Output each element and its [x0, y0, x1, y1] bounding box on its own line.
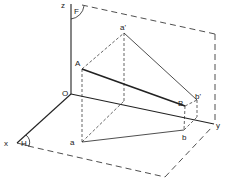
y-label: y	[216, 121, 220, 130]
x-axis	[17, 94, 71, 143]
z-label: z	[61, 1, 65, 10]
origin-label: O	[62, 89, 68, 98]
projection-lines	[82, 33, 197, 142]
y-axis	[71, 94, 214, 124]
point-a-label: a	[70, 138, 75, 147]
point-B-label: B	[178, 99, 183, 108]
x-label: x	[4, 139, 8, 148]
front-projection-a-b	[124, 33, 197, 100]
projection-diagram: z F O x H y a' A B b' a b	[0, 0, 227, 181]
point-A-label: A	[75, 59, 81, 68]
vertical-plane-outline	[82, 5, 215, 124]
h-plane-label: H	[21, 139, 27, 148]
point-a-prime-label: a'	[120, 23, 126, 32]
top-projection-a-b	[82, 130, 184, 142]
point-b-label: b	[182, 133, 187, 142]
f-plane-label: F	[74, 7, 79, 16]
point-b-prime-label: b'	[195, 92, 201, 101]
